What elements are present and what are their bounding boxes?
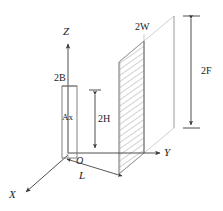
- block-name-label: Ax: [62, 113, 73, 122]
- y-axis-label: Y: [164, 147, 170, 158]
- origin-label: O: [76, 156, 83, 166]
- hatched-plate: [119, 41, 144, 174]
- block-width-label: 2B: [54, 73, 66, 83]
- vertical-block: [62, 86, 77, 158]
- x-axis: [26, 155, 68, 192]
- far-height-label: 2F: [201, 66, 212, 76]
- plate-width-label: 2W: [135, 22, 149, 32]
- diagram-root: Z Y X O 2B Ax 2H 2W 2F L: [0, 0, 223, 211]
- height-label: 2H: [98, 114, 110, 124]
- diagram-canvas: [0, 0, 223, 211]
- distance-label: L: [79, 170, 85, 181]
- far-height-dimension-2f: [183, 16, 200, 128]
- z-axis-label: Z: [63, 26, 69, 37]
- x-axis-label: X: [9, 189, 16, 200]
